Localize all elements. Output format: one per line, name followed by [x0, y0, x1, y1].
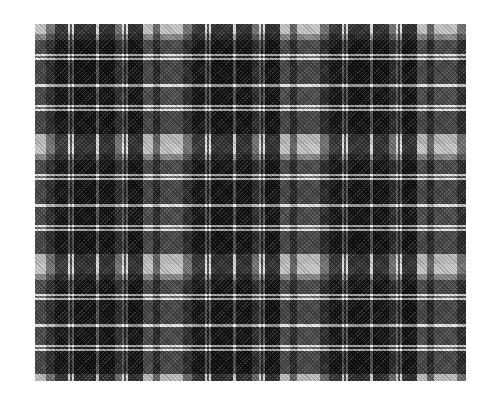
plaid-swatch	[35, 24, 466, 381]
fabric-twill-texture	[35, 24, 466, 381]
